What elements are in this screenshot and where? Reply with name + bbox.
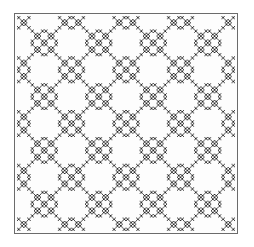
fractal-cells [17, 16, 235, 231]
fractal-frame: Recursive X (saltire) fractal [14, 13, 238, 234]
x-fractal-image [17, 16, 235, 231]
